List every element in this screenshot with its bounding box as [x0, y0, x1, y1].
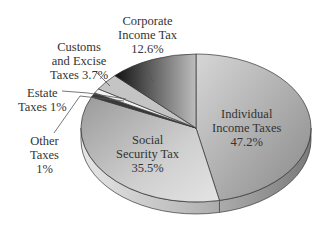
- label-other-taxes: OtherTaxes1%: [30, 134, 59, 176]
- label-individual-income-taxes: IndividualIncome Taxes47.2%: [212, 107, 281, 149]
- label-customs-excise: Customsand ExciseTaxes 3.7%: [50, 40, 108, 82]
- label-estate-taxes: EstateTaxes 1%: [18, 86, 67, 114]
- label-social-security-tax: SocialSecurity Tax35.5%: [116, 133, 179, 175]
- label-corporate-income-tax: CorporateIncome Tax12.6%: [118, 14, 177, 56]
